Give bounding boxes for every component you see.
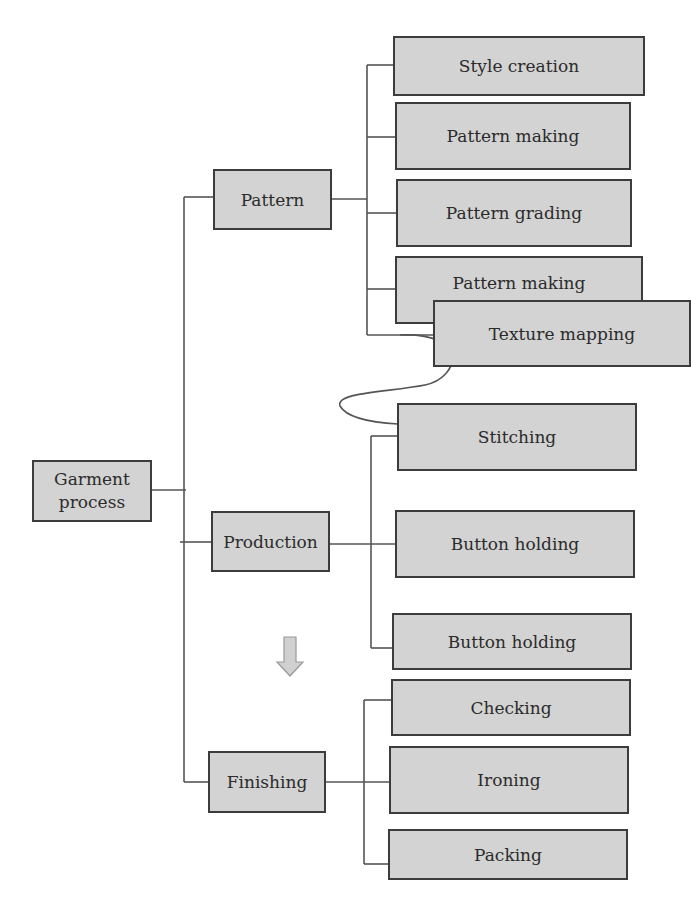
category-node-finishing: Finishing — [208, 751, 326, 813]
leaf-node-style-creation: Style creation — [393, 36, 645, 96]
root-label-line2: process — [59, 491, 125, 514]
root-label-line1: Garment — [54, 468, 130, 491]
leaf-label: Texture mapping — [489, 323, 635, 345]
leaf-label: Pattern grading — [446, 202, 582, 224]
leaf-label: Pattern making — [453, 272, 586, 294]
leaf-label: Style creation — [459, 55, 579, 77]
category-label: Pattern — [241, 189, 305, 211]
leaf-label: Button holding — [448, 631, 576, 653]
category-node-production: Production — [211, 511, 330, 572]
leaf-node-ironing: Ironing — [389, 746, 629, 814]
leaf-label: Packing — [474, 844, 542, 866]
leaf-node-pattern-grading: Pattern grading — [396, 179, 632, 247]
category-label: Production — [223, 531, 318, 553]
leaf-node-button-holding: Button holding — [395, 510, 635, 578]
root-node-garment-process: Garment process — [32, 460, 152, 522]
category-label: Finishing — [227, 771, 308, 793]
category-node-pattern: Pattern — [213, 169, 332, 230]
leaf-node-stitching: Stitching — [397, 403, 637, 471]
arrow-down-icon — [275, 636, 305, 678]
leaf-node-packing: Packing — [388, 829, 628, 880]
leaf-label: Ironing — [477, 769, 540, 791]
leaf-label: Checking — [470, 697, 551, 719]
leaf-node-checking: Checking — [391, 679, 631, 736]
leaf-label: Button holding — [451, 533, 579, 555]
leaf-label: Pattern making — [447, 125, 580, 147]
leaf-node-pattern-making: Pattern making — [395, 102, 631, 170]
leaf-node-button-holding-2: Button holding — [392, 613, 632, 670]
leaf-node-texture-mapping: Texture mapping — [433, 300, 691, 367]
leaf-label: Stitching — [478, 426, 556, 448]
